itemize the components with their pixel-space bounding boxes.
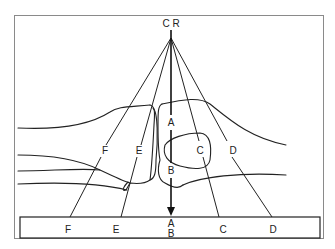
receptor-label-E: E: [110, 225, 122, 235]
source-label: C R: [159, 19, 183, 29]
ray-D-lower: [232, 157, 272, 217]
label-E: E: [133, 146, 145, 156]
ray-E-lower: [121, 157, 137, 217]
label-F: F: [99, 146, 111, 156]
receptor-label-B: B: [165, 229, 177, 239]
tissue-outline-mid-2: [18, 169, 100, 171]
ray-F: [106, 38, 171, 145]
ray-E: [141, 38, 171, 145]
ray-D: [171, 38, 227, 141]
label-A: A: [165, 118, 177, 128]
tissue-outline-upper: [18, 105, 150, 128]
tissue-outline-right-lower: [183, 174, 286, 185]
ray-F-lower: [70, 157, 101, 217]
receptor-label-F: F: [62, 225, 74, 235]
arrow-head-icon: [167, 207, 175, 216]
tissue-outline-right-upper: [162, 99, 286, 145]
tissue-outline-mid-3: [18, 183, 127, 190]
receptor-label-C: C: [217, 225, 229, 235]
label-D: D: [227, 146, 239, 156]
receptor-label-D: D: [267, 225, 279, 235]
label-C: C: [194, 146, 206, 156]
label-B: B: [165, 166, 177, 176]
ray-C-lower: [203, 157, 219, 217]
